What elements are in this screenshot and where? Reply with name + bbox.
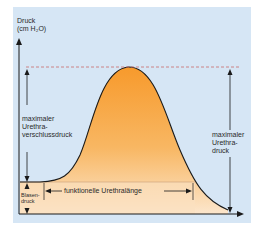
max-urethral-pressure-label: maximaler Urethra- druck bbox=[212, 131, 244, 155]
label-line: druck bbox=[212, 147, 244, 155]
bladder-pressure-label: Blasen- druck bbox=[21, 192, 40, 204]
y-axis-label-line2: (cm H₂O) bbox=[17, 25, 46, 33]
max-urethral-pressure-up-arrow-icon bbox=[228, 69, 233, 75]
label-line: druck bbox=[21, 198, 40, 204]
functional-length-label: funktionelle Urethralänge bbox=[64, 187, 142, 195]
y-axis-arrow-icon bbox=[16, 38, 22, 45]
label-line: maximaler bbox=[22, 115, 72, 123]
max-closure-pressure-label: maximaler Urethra- verschlussdruck bbox=[22, 115, 72, 139]
label-line: verschlussdruck bbox=[22, 131, 72, 139]
label-line: Urethra- bbox=[212, 139, 244, 147]
closure-pressure-up-arrow-icon bbox=[25, 69, 30, 75]
y-axis-label-line1: Druck bbox=[17, 17, 46, 25]
max-urethral-pressure-down-arrow-icon bbox=[228, 207, 233, 213]
closure-pressure-down-arrow-icon bbox=[25, 176, 30, 182]
y-axis-label: Druck (cm H₂O) bbox=[17, 17, 46, 33]
label-line: maximaler bbox=[212, 131, 244, 139]
label-line: Urethra- bbox=[22, 123, 72, 131]
x-axis-arrow-icon bbox=[237, 211, 244, 217]
